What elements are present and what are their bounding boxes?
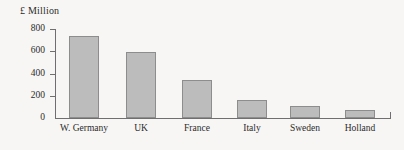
y-axis-tick-label: 400 <box>5 68 45 78</box>
x-axis-line <box>55 118 391 119</box>
y-axis-tick <box>50 29 56 30</box>
bar <box>237 100 267 118</box>
y-axis-tick <box>50 74 56 75</box>
bar <box>126 52 156 118</box>
bar <box>290 106 320 118</box>
y-axis-tick-label: 0 <box>5 112 45 122</box>
y-axis-tick-label: 200 <box>5 90 45 100</box>
x-axis-end-tick <box>390 112 391 119</box>
x-axis-category-label: France <box>184 123 210 133</box>
y-axis-tick-label: 800 <box>5 23 45 33</box>
y-axis-tick-label: 600 <box>5 45 45 55</box>
x-axis-category-label: W. Germany <box>60 123 108 133</box>
bar-chart: £ Million 8006004002000 W. GermanyUKFran… <box>0 0 404 150</box>
x-axis-category-label: UK <box>134 123 148 133</box>
bar <box>182 80 212 118</box>
x-axis-category-label: Sweden <box>290 123 320 133</box>
y-axis-tick <box>50 96 56 97</box>
bar <box>69 36 99 118</box>
y-axis-tick <box>50 51 56 52</box>
x-axis-category-label: Italy <box>243 123 260 133</box>
bar <box>345 110 375 118</box>
x-axis-category-label: Holland <box>345 123 376 133</box>
plot-area: 8006004002000 W. GermanyUKFranceItalySwe… <box>0 0 404 150</box>
